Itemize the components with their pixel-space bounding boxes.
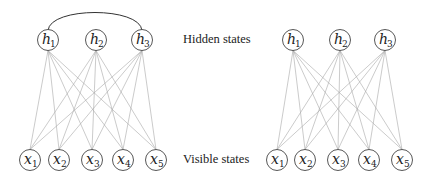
edge-h1-x1 (277, 51, 293, 150)
node-subscript: 1 (50, 39, 56, 49)
node-label: x (24, 151, 32, 167)
hidden-connection-arc (48, 13, 142, 31)
edge-h1-x2 (293, 51, 305, 150)
node-h1: h1 (38, 30, 59, 51)
hidden-states-label: Hidden states (183, 32, 251, 47)
node-label: x (396, 151, 404, 167)
edge-h3-x5 (385, 51, 402, 150)
node-subscript: 4 (371, 159, 377, 169)
node-label: x (53, 151, 61, 167)
node-label: x (363, 151, 371, 167)
edge-h2-x4 (96, 51, 123, 150)
node-label: x (299, 151, 307, 167)
node-x2: x2 (49, 150, 70, 171)
arcs-layer (48, 13, 142, 31)
edge-h1-x5 (48, 51, 156, 150)
node-h1: h1 (283, 30, 304, 51)
node-x3: x3 (82, 150, 103, 171)
node-subscript: 3 (340, 159, 346, 169)
edge-h3-x5 (142, 51, 156, 150)
node-subscript: 5 (158, 159, 164, 169)
node-h2: h2 (330, 30, 351, 51)
node-x5: x5 (146, 150, 167, 171)
node-x5: x5 (392, 150, 413, 171)
edges-layer (30, 51, 402, 150)
edge-h3-x3 (92, 51, 142, 150)
node-subscript: 3 (94, 159, 100, 169)
edge-h2-x5 (340, 51, 402, 150)
edge-h1-x5 (293, 51, 402, 150)
edge-h2-x3 (92, 51, 96, 150)
node-subscript: 2 (98, 39, 104, 49)
node-h3: h3 (375, 30, 396, 51)
node-h3: h3 (132, 30, 153, 51)
node-subscript: 1 (32, 159, 38, 169)
edge-h1-x1 (30, 51, 48, 150)
node-subscript: 1 (279, 159, 285, 169)
nodes-layer: h1h2h3x1x2x3x4x5h1h2h3x1x2x3x4x5 (20, 30, 413, 171)
node-subscript: 3 (387, 39, 393, 49)
node-subscript: 3 (144, 39, 150, 49)
node-subscript: 1 (295, 39, 301, 49)
node-x4: x4 (359, 150, 380, 171)
node-label: x (150, 151, 158, 167)
node-label: x (271, 151, 279, 167)
edge-h2-x2 (305, 51, 340, 150)
node-subscript: 2 (61, 159, 67, 169)
edge-h2-x1 (277, 51, 340, 150)
edge-h2-x4 (340, 51, 369, 150)
node-subscript: 2 (307, 159, 313, 169)
node-x3: x3 (328, 150, 349, 171)
node-h2: h2 (86, 30, 107, 51)
node-subscript: 4 (125, 159, 131, 169)
edge-h3-x2 (59, 51, 142, 150)
node-x1: x1 (267, 150, 288, 171)
node-x2: x2 (295, 150, 316, 171)
edge-h3-x4 (369, 51, 385, 150)
visible-states-label: Visible states (183, 152, 249, 167)
node-label: x (86, 151, 94, 167)
node-subscript: 5 (404, 159, 410, 169)
node-label: x (332, 151, 340, 167)
node-label: x (117, 151, 125, 167)
node-subscript: 2 (342, 39, 348, 49)
edge-h2-x3 (338, 51, 340, 150)
node-x1: x1 (20, 150, 41, 171)
edge-h1-x2 (48, 51, 59, 150)
node-x4: x4 (113, 150, 134, 171)
